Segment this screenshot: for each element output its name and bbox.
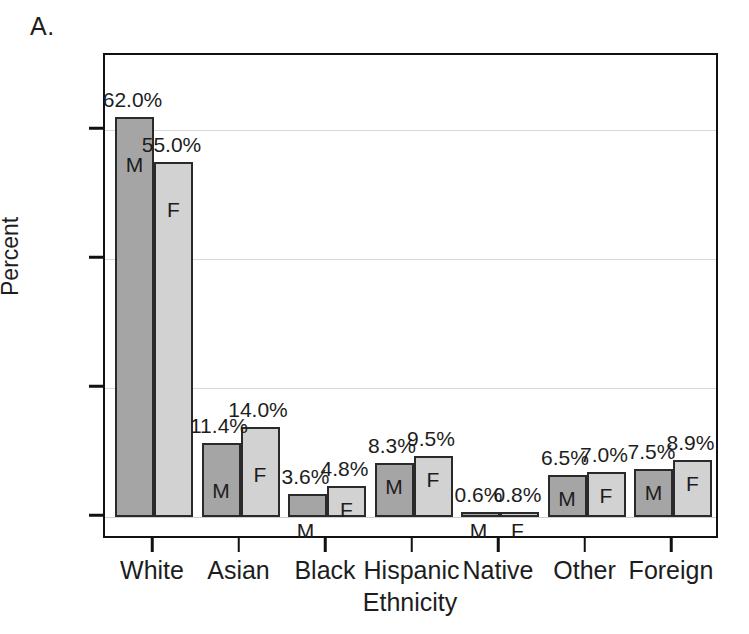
bar-letter-hispanic-f: F	[416, 468, 451, 492]
bar-foreign-m: M	[634, 469, 673, 517]
bar-hispanic-m: M	[375, 463, 414, 517]
bar-black-m	[288, 494, 327, 517]
value-label-white-f: 55.0%	[142, 133, 202, 157]
bar-letter-hispanic-m: M	[377, 475, 412, 499]
gridline-40	[105, 259, 716, 260]
value-label-white-m: 62.0%	[103, 88, 163, 112]
bar-hispanic-f: F	[414, 456, 453, 517]
x-tick-label-hispanic: Hispanic	[364, 556, 460, 585]
bar-white-m: M	[115, 117, 154, 517]
x-tick-mark-other	[583, 538, 586, 552]
x-tick-mark-black	[324, 538, 327, 552]
y-tick-mark-40	[89, 256, 103, 259]
y-axis-title: Percent	[0, 217, 24, 296]
x-tick-label-black: Black	[294, 556, 355, 585]
x-axis-title: Ethnicity	[363, 588, 457, 617]
x-tick-mark-native	[497, 538, 500, 552]
bar-other-f: F	[587, 472, 626, 517]
bar-letter-asian-m: M	[204, 479, 239, 503]
value-label-native-f: 0.8%	[494, 483, 542, 507]
x-tick-mark-asian	[237, 538, 240, 552]
x-tick-label-white: White	[120, 556, 184, 585]
value-label-hispanic-f: 9.5%	[407, 427, 455, 451]
gridline-60	[105, 130, 716, 131]
bar-white-f: F	[154, 162, 193, 517]
y-tick-mark-20	[89, 385, 103, 388]
bar-letter-black-m: M	[297, 519, 315, 543]
value-label-other-f: 7.0%	[580, 443, 628, 467]
value-label-asian-f: 14.0%	[228, 398, 288, 422]
bar-other-m: M	[548, 475, 587, 517]
bar-letter-native-m: M	[470, 519, 488, 543]
value-label-foreign-f: 8.9%	[667, 431, 715, 455]
bar-letter-other-f: F	[589, 484, 624, 508]
bar-letter-foreign-f: F	[675, 472, 710, 496]
y-tick-mark-60	[89, 127, 103, 130]
bar-letter-asian-f: F	[243, 463, 278, 487]
x-tick-label-native: Native	[463, 556, 534, 585]
x-tick-mark-hispanic	[410, 538, 413, 552]
bar-asian-f: F	[241, 427, 280, 517]
bar-letter-native-f: F	[511, 519, 524, 543]
bar-letter-foreign-m: M	[636, 481, 671, 505]
x-tick-label-foreign: Foreign	[629, 556, 714, 585]
x-tick-mark-foreign	[670, 538, 673, 552]
y-tick-mark-0	[89, 514, 103, 517]
bar-foreign-f: F	[673, 460, 712, 517]
bar-asian-m: M	[202, 443, 241, 517]
bar-letter-black-f: F	[329, 498, 364, 522]
x-tick-label-other: Other	[553, 556, 616, 585]
panel-label: A.	[30, 12, 55, 41]
bar-native-f	[500, 512, 539, 517]
x-tick-mark-white	[151, 538, 154, 552]
bar-letter-other-m: M	[550, 487, 585, 511]
gridline-20	[105, 388, 716, 389]
bar-native-m	[461, 512, 500, 517]
gridline-0	[105, 517, 716, 518]
x-tick-label-asian: Asian	[207, 556, 270, 585]
bar-black-f: F	[327, 486, 366, 517]
bar-letter-white-f: F	[156, 198, 191, 222]
value-label-black-f: 4.8%	[321, 457, 369, 481]
